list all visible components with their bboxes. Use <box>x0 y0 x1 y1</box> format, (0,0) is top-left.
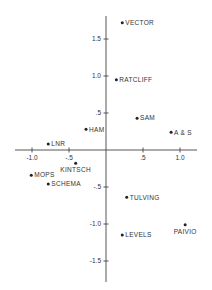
point-marker <box>47 143 50 146</box>
scatter-plot: -1.0-.5.51.01.51.0.5-.5-1.0-1.5 VECTORRA… <box>0 0 212 290</box>
y-tick-label: 1.5 <box>92 35 101 42</box>
point-label: SAM <box>140 114 155 121</box>
data-point: SCHEMA <box>47 180 81 187</box>
point-label: A & S <box>174 129 192 136</box>
point-label: LNR <box>51 140 65 147</box>
point-marker <box>74 162 77 165</box>
point-label: VECTOR <box>125 19 154 26</box>
point-marker <box>30 174 33 177</box>
point-marker <box>136 117 139 120</box>
data-point: HAM <box>85 126 105 133</box>
data-point: RATCLIFF <box>115 76 152 83</box>
point-label: MOPS <box>34 171 55 178</box>
y-tick-label: 1.0 <box>92 72 101 79</box>
point-label: LEVELS <box>125 231 152 238</box>
point-marker <box>121 234 124 237</box>
data-point: MOPS <box>30 171 55 178</box>
point-marker <box>47 183 50 186</box>
x-tick-label: -.5 <box>65 154 73 161</box>
point-label: TULVING <box>130 194 160 201</box>
point-marker <box>85 128 88 131</box>
x-tick-label: -1.0 <box>26 154 38 161</box>
x-tick-label: 1.0 <box>175 154 184 161</box>
point-marker <box>125 196 128 199</box>
x-tick-label: .5 <box>140 154 146 161</box>
data-points: VECTORRATCLIFFSAMA & SHAMLNRKINTSCHMOPSS… <box>30 19 197 238</box>
point-label: SCHEMA <box>51 180 81 187</box>
data-point: SAM <box>136 114 156 121</box>
data-point: LNR <box>47 140 65 147</box>
data-point: A & S <box>170 129 193 136</box>
data-point: TULVING <box>125 194 159 201</box>
y-tick-label: -1.0 <box>90 220 102 227</box>
point-marker <box>115 78 118 81</box>
point-label: KINTSCH <box>60 166 91 173</box>
point-marker <box>170 131 173 134</box>
data-point: LEVELS <box>121 231 152 238</box>
y-tick-label: -.5 <box>93 183 101 190</box>
point-label: RATCLIFF <box>119 76 152 83</box>
data-point: KINTSCH <box>60 162 91 174</box>
y-tick-label: .5 <box>96 109 102 116</box>
point-label: HAM <box>89 126 104 133</box>
data-point: PAIVIO <box>174 223 197 235</box>
point-marker <box>184 223 187 226</box>
y-tick-label: -1.5 <box>90 257 102 264</box>
point-marker <box>121 21 124 24</box>
data-point: VECTOR <box>121 19 154 26</box>
point-label: PAIVIO <box>174 228 197 235</box>
